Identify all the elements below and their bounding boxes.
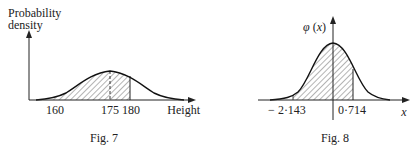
tick-180: 180: [122, 103, 140, 117]
tick-neg2143: − 2·143: [268, 103, 306, 117]
shaded-region-fig8: [270, 43, 390, 100]
caption-fig8: Fig. 8: [321, 131, 349, 145]
y-label-phi: φ (x): [303, 20, 326, 34]
y-label-line2: density: [8, 18, 43, 32]
figure-8: φ (x) − 2·143 0·714 x Fig. 8: [258, 16, 410, 145]
x-label-height: Height: [167, 103, 200, 117]
figures-canvas: Probability density 160 175 180 Height F…: [0, 0, 419, 150]
x-label-x: x: [400, 105, 407, 119]
caption-fig7: Fig. 7: [90, 131, 118, 145]
x-axis-arrow-icon: [402, 97, 410, 103]
tick-160: 160: [46, 103, 64, 117]
y-axis-arrow-icon: [330, 16, 336, 24]
tick-0714: 0·714: [338, 103, 366, 117]
figure-7: Probability density 160 175 180 Height F…: [8, 6, 201, 145]
tick-175: 175: [101, 103, 119, 117]
